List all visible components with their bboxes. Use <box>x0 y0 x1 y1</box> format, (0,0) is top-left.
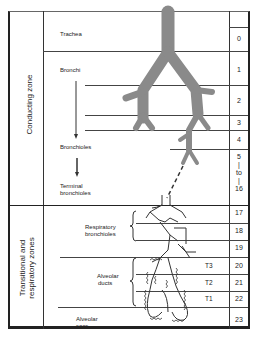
airway-tree-illustration <box>0 0 258 351</box>
conducting-airway <box>126 12 212 163</box>
arrow-down-icon <box>75 172 79 177</box>
arrow-down-icon <box>74 134 78 139</box>
alveoli <box>145 259 186 322</box>
dashed-continuation <box>167 166 183 198</box>
brace-icon <box>130 211 136 306</box>
respiratory-airway <box>146 195 196 320</box>
